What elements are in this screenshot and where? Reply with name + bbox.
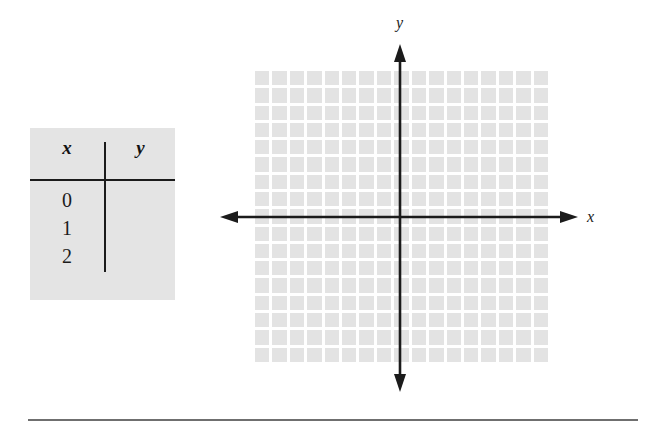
x-axis-right-arrow-icon — [560, 211, 578, 223]
footer-divider — [28, 419, 638, 421]
table-horizontal-rule — [30, 179, 175, 181]
x-axis-left-arrow-icon — [220, 211, 238, 223]
table-column-x: 0 1 2 — [30, 186, 104, 270]
value-table-header: x y — [30, 128, 175, 180]
table-cell-x-2: 2 — [30, 242, 104, 270]
column-header-x: x — [30, 137, 104, 159]
figure-container: x y 0 1 2 y x — [0, 0, 646, 429]
x-axis-label: x — [587, 208, 594, 226]
y-axis-up-arrow-icon — [394, 44, 406, 62]
table-cell-x-0: 0 — [30, 186, 104, 214]
table-column-y — [106, 186, 175, 270]
column-header-y: y — [106, 137, 175, 159]
table-cell-y-2 — [106, 242, 175, 270]
table-cell-y-1 — [106, 214, 175, 242]
table-cell-y-0 — [106, 186, 175, 214]
table-cell-x-1: 1 — [30, 214, 104, 242]
y-axis-label: y — [396, 14, 403, 32]
coordinate-grid — [252, 68, 548, 362]
grid-cells — [252, 68, 548, 362]
value-table: x y 0 1 2 — [30, 128, 175, 300]
y-axis-down-arrow-icon — [394, 374, 406, 392]
